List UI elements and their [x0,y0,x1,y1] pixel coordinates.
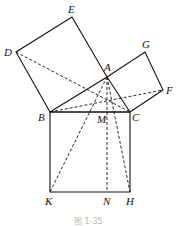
label-F: F [165,84,173,96]
geometry-figure: E D A G F B C M K N H 图 1-35 [0,0,178,226]
figure-caption: 图 1-35 [74,217,103,226]
label-H: H [125,195,135,207]
label-B: B [38,111,45,123]
label-K: K [44,195,53,207]
label-G: G [142,38,150,50]
label-N: N [102,195,111,207]
label-E: E [67,3,75,15]
label-M: M [96,113,107,125]
square-ABDE [16,17,107,112]
label-A: A [103,61,111,73]
square-BCHK [50,112,130,192]
label-C: C [132,111,140,123]
square-ACFG [107,52,163,112]
label-D: D [3,46,12,58]
